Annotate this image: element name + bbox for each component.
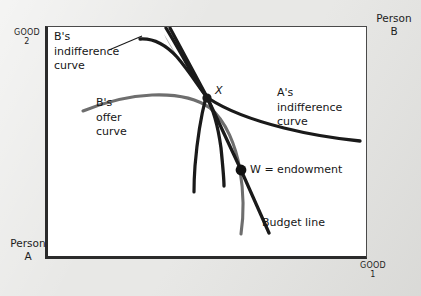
- annotation-endowment: W = endowment: [250, 163, 342, 178]
- b-offer-line1: B's: [96, 96, 112, 109]
- b-offer-line2: offer: [96, 111, 122, 124]
- b-indiff-line2: indifference: [54, 45, 119, 58]
- person-a-line2: A: [24, 250, 31, 262]
- b-offer-line3: curve: [96, 125, 127, 138]
- annotation-budget-line: Budget line: [262, 216, 325, 231]
- b-indiff-line3: curve: [54, 59, 85, 72]
- axis-label-good-1-line1: GOOD: [360, 261, 386, 270]
- axis-label-good-1: GOOD 1: [356, 261, 390, 279]
- a-indiff-line3: curve: [277, 115, 308, 128]
- b-indiff-line1: B's: [54, 30, 70, 43]
- axis-label-good-2-line2: 2: [24, 37, 29, 46]
- annotation-b-offer-curve: B's offer curve: [96, 96, 127, 140]
- person-b-line1: Person: [376, 12, 411, 24]
- axis-label-good-2: GOOD 2: [10, 28, 44, 46]
- a-indiff-line2: indifference: [277, 101, 342, 114]
- annotation-point-x: X: [215, 84, 223, 99]
- corner-label-person-a: Person A: [6, 237, 50, 262]
- annotation-a-indifference-curve: A's indifference curve: [277, 86, 342, 130]
- axis-label-good-1-line2: 1: [370, 270, 375, 279]
- endowment-symbol: W: [250, 163, 261, 176]
- edgeworth-box-figure: GOOD 2 GOOD 1 Person B Person A B's indi…: [0, 0, 421, 296]
- corner-label-person-b: Person B: [370, 12, 418, 37]
- axis-label-good-2-line1: GOOD: [14, 28, 40, 37]
- a-indiff-line1: A's: [277, 86, 293, 99]
- person-a-line1: Person: [10, 237, 45, 249]
- annotation-b-indifference-curve: B's indifference curve: [54, 30, 119, 74]
- endowment-word: endowment: [277, 163, 342, 176]
- endowment-equals: =: [264, 163, 273, 176]
- person-b-line2: B: [390, 25, 397, 37]
